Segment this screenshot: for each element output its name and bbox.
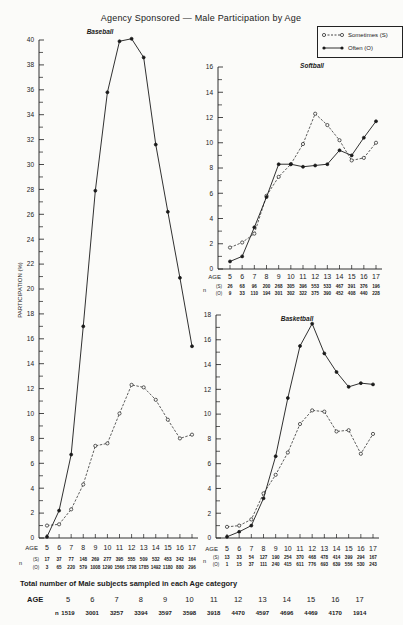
data-point-filled [229,260,232,263]
data-point-open [94,444,97,447]
chart-title: Baseball [87,28,114,35]
x-tick-label: 8 [262,545,266,552]
totals-age: 5 [66,595,70,604]
n-value: 440 [360,291,368,296]
data-point-filled [46,535,49,538]
n-value: 693 [320,562,328,567]
x-tick-label: 5 [45,544,49,551]
data-point-open [118,412,121,415]
data-point-filled [70,453,73,456]
n-value: 196 [372,284,380,289]
n-value: 220 [67,565,75,570]
svg-text:(O): (O) [216,291,223,296]
data-point-open [286,451,289,454]
y-tick-label: 34 [27,111,35,118]
data-point-filled [274,455,277,458]
totals-n: 3394 [134,610,148,616]
totals-age: 7 [115,595,119,604]
n-value: 302 [287,291,295,296]
data-point-filled [238,530,241,533]
n-value: 13 [224,555,230,560]
data-point-open [70,508,73,511]
data-point-filled [289,163,292,166]
n-value: 639 [333,562,341,567]
n-value: 1290 [102,565,113,570]
y-tick-label: 10 [27,410,35,417]
y-tick-label: 38 [27,61,35,68]
series-line-sometimes [47,385,192,526]
x-tick-label: 15 [164,544,172,551]
data-point-open [274,473,277,476]
chart-title: Softball [300,62,324,69]
data-point-open [359,452,362,455]
totals-age: 15 [307,595,315,604]
totals-n: 3598 [183,610,197,616]
legend: Sometimes (S) Often (O) [317,26,403,58]
n-value: 54 [249,555,255,560]
x-tick-label: 12 [311,273,319,280]
data-point-open [311,409,314,412]
data-point-filled [250,524,253,527]
n-value: 880 [176,565,184,570]
age-row-label: AGE [205,546,218,552]
n-row-label: n [203,287,206,293]
data-point-filled [311,322,314,325]
data-point-filled [94,189,97,192]
totals-n: 4696 [280,610,294,616]
totals-age: 12 [234,595,242,604]
x-tick-label: 6 [237,545,241,552]
data-point-filled [130,37,133,40]
n-value: 776 [308,562,316,567]
data-point-filled [302,165,305,168]
svg-text:(S): (S) [33,557,40,562]
totals-age: 6 [90,595,94,604]
totals-age: 17 [355,595,363,604]
n-value: 1566 [114,565,125,570]
n-value: 408 [348,291,356,296]
n-value: 254 [284,555,292,560]
n-value: 37 [249,562,255,567]
x-tick-label: 10 [284,545,292,552]
legend-label-sometimes: Sometimes (S) [348,32,388,38]
y-tick-label: 6 [209,190,213,197]
svg-text:(O): (O) [213,562,220,567]
data-point-filled [118,40,121,43]
x-tick-label: 15 [345,545,353,552]
data-point-filled [286,397,289,400]
n-value: 415 [284,562,292,567]
n-value: 243 [369,562,377,567]
n-value: 467 [336,284,344,289]
y-tick-label: 20 [27,285,35,292]
n-value: 414 [333,555,341,560]
y-tick-label: 0 [207,534,211,541]
n-value: 556 [345,562,353,567]
y-tick-label: 12 [204,386,212,393]
data-point-open [362,156,365,159]
legend-item-sometimes: Sometimes (S) [322,31,388,39]
totals-age: 11 [210,595,218,604]
n-value: 376 [360,284,368,289]
data-point-open [166,418,169,421]
totals-title: Total number of Male subjects sampled in… [20,579,237,588]
y-tick-label: 6 [30,460,34,467]
data-point-open [347,429,350,432]
data-point-filled [362,136,365,139]
n-value: 9 [229,291,232,296]
y-tick-label: 28 [27,186,35,193]
n-value: 375 [311,291,319,296]
n-value: 342 [176,557,184,562]
data-point-open [225,525,228,528]
data-point-filled [359,382,362,385]
n-value: 277 [104,557,112,562]
data-point-filled [142,56,145,59]
n-value: 1785 [139,565,150,570]
n-value: 509 [140,557,148,562]
n-value: 533 [323,284,331,289]
n-value: 555 [128,557,136,562]
y-tick-label: 36 [27,86,35,93]
y-tick-label: 14 [27,360,35,367]
n-value: 305 [287,284,295,289]
svg-text:(S): (S) [216,284,223,289]
x-tick-label: 14 [336,273,344,280]
n-value: 579 [79,565,87,570]
